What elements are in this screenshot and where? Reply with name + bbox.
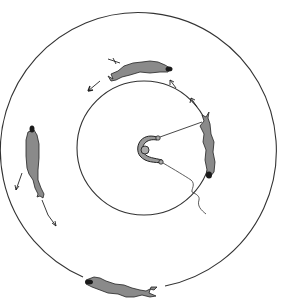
arena-diagram: Circular arena diagram: tethered animal … <box>0 0 282 299</box>
